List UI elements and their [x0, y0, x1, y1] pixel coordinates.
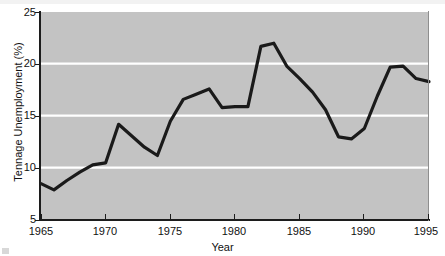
- y-tick-label-5: 5: [6, 214, 36, 225]
- x-tickmark-1965: [41, 214, 42, 220]
- x-tick-label-1975: 1975: [150, 226, 190, 237]
- x-tickmark-1970: [105, 214, 106, 220]
- x-tick-label-1985: 1985: [279, 226, 319, 237]
- x-tickmark-1980: [234, 214, 235, 220]
- top-border-strip: [0, 0, 445, 4]
- y-axis-title: Tennage Unemployment (%): [12, 12, 24, 212]
- plot-right-edge: [428, 11, 429, 221]
- x-tickmark-1990: [363, 214, 364, 220]
- x-tick-label-1980: 1980: [214, 226, 254, 237]
- x-tickmark-1975: [170, 214, 171, 220]
- x-tick-label-1965: 1965: [21, 226, 61, 237]
- x-axis-title: Year: [0, 241, 445, 253]
- x-tick-label-1970: 1970: [85, 226, 125, 237]
- x-tick-label-1995: 1995: [406, 226, 445, 237]
- chart-figure: 25 20 15 10 5 1965 1970 1975 1980 1985 1…: [0, 0, 445, 256]
- x-tick-label-1990: 1990: [343, 226, 383, 237]
- y-axis-line: [39, 11, 41, 221]
- x-tickmark-1995: [428, 214, 429, 220]
- x-tickmark-1985: [299, 214, 300, 220]
- plot-area: [41, 12, 429, 220]
- chart-canvas: [41, 12, 429, 220]
